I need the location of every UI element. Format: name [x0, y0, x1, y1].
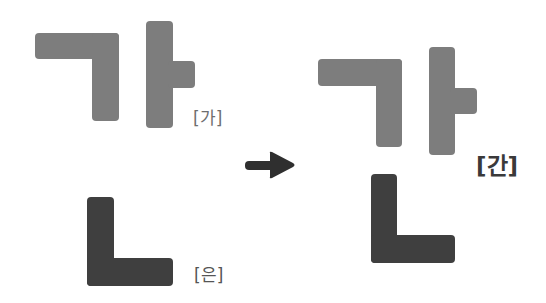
giyeok-vertical-stroke [376, 59, 402, 147]
a-horizontal-stub [450, 88, 477, 114]
result-syllable-gan: [간] [0, 0, 546, 303]
nieun-horizontal-stroke [371, 235, 455, 263]
syllable-label-gan: [간] [476, 155, 518, 178]
